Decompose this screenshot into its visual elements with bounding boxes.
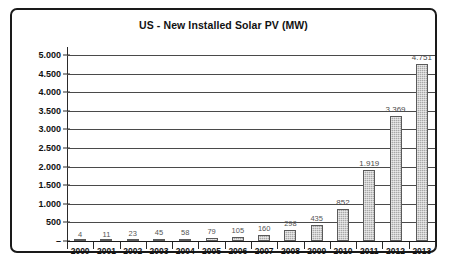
category-tick-mark — [435, 242, 436, 249]
bar — [284, 230, 296, 241]
category-label: 2006 — [228, 246, 247, 256]
category-label: 2008 — [281, 246, 300, 256]
bar-value-label: 105 — [232, 226, 245, 235]
y-axis-tick-label: 3.000 — [15, 124, 61, 134]
bar — [337, 209, 349, 241]
category-label: 2000 — [71, 246, 90, 256]
category-tick-mark — [67, 242, 68, 249]
category-label: 2001 — [97, 246, 116, 256]
category-tick-mark — [330, 242, 331, 249]
y-axis-tick-label: 1.500 — [15, 180, 61, 190]
chart-title: US - New Installed Solar PV (MW) — [12, 19, 435, 31]
category-tick-mark — [120, 242, 121, 249]
category-label: 2013 — [412, 246, 431, 256]
gridline — [67, 92, 435, 93]
plot-area: 411234558791051602984358521.9193.3694.75… — [67, 55, 435, 241]
gridline — [67, 167, 435, 168]
gridline — [67, 204, 435, 205]
category-tick-mark — [277, 242, 278, 249]
category-tick-mark — [251, 242, 252, 249]
gridline — [67, 185, 435, 186]
gridline — [67, 148, 435, 149]
bar-value-label: 45 — [155, 228, 163, 237]
category-axis: 2000200120022003200420052006200720082009… — [67, 241, 435, 265]
gridline — [67, 55, 435, 56]
category-tick-mark — [146, 242, 147, 249]
y-axis-tick-label: 3.500 — [15, 106, 61, 116]
bar-value-label: 11 — [103, 230, 111, 239]
bar — [416, 64, 428, 241]
y-axis-labels: –5001.0001.5002.0002.5003.0003.5004.0004… — [12, 10, 61, 267]
category-label: 2003 — [150, 246, 169, 256]
bar-value-label: 79 — [207, 227, 215, 236]
bar-value-label: 4 — [78, 230, 82, 239]
category-label: 2012 — [386, 246, 405, 256]
y-axis-tick-label: 5.000 — [15, 50, 61, 60]
category-label: 2002 — [123, 246, 142, 256]
bar-value-label: 4.751 — [412, 53, 432, 62]
bar-value-label: 23 — [129, 229, 137, 238]
category-tick-mark — [172, 242, 173, 249]
y-axis-tick-label: 1.000 — [15, 199, 61, 209]
bar-value-label: 58 — [181, 228, 189, 237]
y-axis-tick-label: 4.500 — [15, 69, 61, 79]
category-label: 2010 — [334, 246, 353, 256]
y-axis-tick-label: 500 — [15, 217, 61, 227]
category-label: 2004 — [176, 246, 195, 256]
bar-value-label: 852 — [336, 198, 349, 207]
bar — [390, 116, 402, 241]
gridline — [67, 74, 435, 75]
chart-frame: US - New Installed Solar PV (MW) –5001.0… — [10, 8, 437, 253]
category-label: 2011 — [360, 246, 378, 256]
gridline — [67, 222, 435, 223]
y-axis-tick-label: 2.500 — [15, 143, 61, 153]
category-tick-mark — [304, 242, 305, 249]
category-tick-mark — [382, 242, 383, 249]
bar-value-label: 1.919 — [359, 159, 379, 168]
bar — [363, 170, 375, 241]
bar-value-label: 3.369 — [386, 105, 406, 114]
y-axis-tick-label: 2.000 — [15, 162, 61, 172]
y-axis-tick-label: 4.000 — [15, 87, 61, 97]
bar-value-label: 298 — [284, 219, 297, 228]
gridline — [67, 111, 435, 112]
bar-value-label: 435 — [310, 214, 323, 223]
y-axis-tick-label: – — [15, 236, 61, 246]
category-label: 2009 — [307, 246, 326, 256]
bar — [311, 225, 323, 241]
bar-value-label: 160 — [258, 224, 271, 233]
category-tick-mark — [225, 242, 226, 249]
category-label: 2005 — [202, 246, 221, 256]
gridline — [67, 129, 435, 130]
category-tick-mark — [93, 242, 94, 249]
category-label: 2007 — [255, 246, 274, 256]
category-tick-mark — [409, 242, 410, 249]
category-tick-mark — [356, 242, 357, 249]
category-tick-mark — [198, 242, 199, 249]
